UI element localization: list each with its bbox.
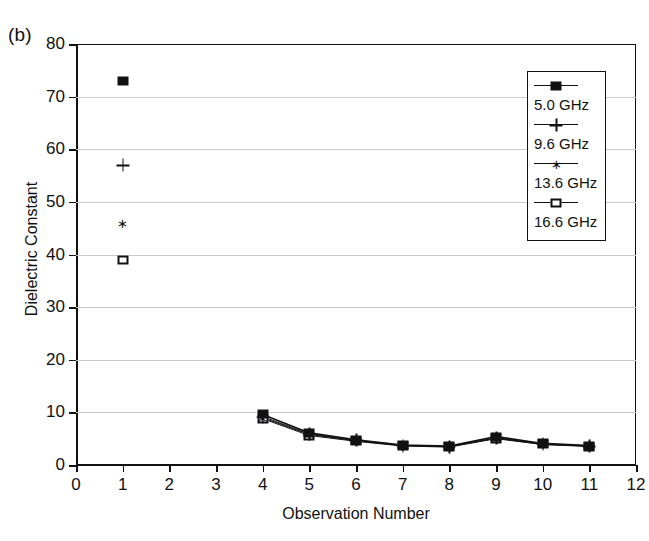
y-tick (69, 360, 76, 362)
y-tick (69, 97, 76, 99)
marker-open-square (117, 255, 128, 264)
legend-key-row (528, 194, 605, 212)
x-tick-label: 3 (196, 475, 236, 495)
legend-label: 13.6 GHz (528, 173, 605, 194)
marker-filled-square (351, 435, 362, 444)
x-tick-label: 2 (149, 475, 189, 495)
legend-key (534, 194, 578, 212)
legend-box: 5.0 GHz9.6 GHz∗13.6 GHz16.6 GHz (527, 71, 606, 241)
x-axis-label: Observation Number (76, 505, 636, 523)
x-tick-label: 11 (569, 475, 609, 495)
x-tick (123, 465, 125, 472)
legend-key-row (528, 116, 605, 134)
legend-label: 9.6 GHz (528, 134, 605, 155)
x-tick-label: 9 (476, 475, 516, 495)
x-tick-label: 4 (243, 475, 283, 495)
legend-key: ∗ (534, 155, 578, 173)
x-tick-label: 1 (103, 475, 143, 495)
y-tick-label: 50 (5, 192, 65, 212)
marker-filled-square (257, 410, 268, 419)
x-tick (449, 465, 451, 472)
y-tick (69, 44, 76, 46)
x-tick-label: 10 (523, 475, 563, 495)
x-tick (169, 465, 171, 472)
x-tick (309, 465, 311, 472)
marker-filled-square (491, 432, 502, 441)
x-tick (589, 465, 591, 472)
x-tick-label: 5 (289, 475, 329, 495)
marker-filled-square (537, 439, 548, 448)
legend-key (534, 77, 578, 95)
x-tick (543, 465, 545, 472)
x-tick (76, 465, 78, 472)
marker-filled-square (584, 441, 595, 450)
x-tick-label: 8 (429, 475, 469, 495)
y-tick-label: 30 (5, 297, 65, 317)
marker-asterisk: ∗ (551, 159, 562, 170)
marker-plus (550, 119, 563, 132)
x-tick (496, 465, 498, 472)
y-tick-label: 20 (5, 350, 65, 370)
y-tick (69, 465, 76, 467)
marker-filled-square (304, 428, 315, 437)
x-tick (263, 465, 265, 472)
figure-root: (b) Dielectric Constant Observation Numb… (0, 0, 649, 541)
legend-label: 16.6 GHz (528, 212, 605, 233)
x-tick (636, 465, 638, 472)
legend-label: 5.0 GHz (528, 95, 605, 116)
y-tick-label: 0 (5, 455, 65, 475)
y-tick-label: 80 (5, 34, 65, 54)
x-tick (356, 465, 358, 472)
x-tick (403, 465, 405, 472)
marker-filled-square (397, 441, 408, 450)
marker-plus (116, 159, 129, 172)
marker-open-square (551, 199, 562, 208)
y-tick (69, 149, 76, 151)
marker-filled-square (444, 442, 455, 451)
x-tick-label: 6 (336, 475, 376, 495)
marker-filled-square (117, 76, 128, 85)
y-tick-label: 60 (5, 139, 65, 159)
x-tick-label: 7 (383, 475, 423, 495)
marker-asterisk: ∗ (117, 217, 128, 228)
legend-key-row: ∗ (528, 155, 605, 173)
y-tick-label: 10 (5, 402, 65, 422)
marker-filled-square (551, 82, 562, 91)
legend-key (534, 116, 578, 134)
y-tick (69, 202, 76, 204)
y-tick (69, 307, 76, 309)
x-tick-label: 0 (56, 475, 96, 495)
y-tick (69, 255, 76, 257)
legend-key-row (528, 77, 605, 95)
y-tick-label: 70 (5, 87, 65, 107)
x-tick (216, 465, 218, 472)
y-tick-label: 40 (5, 245, 65, 265)
y-tick (69, 412, 76, 414)
x-tick-label: 12 (616, 475, 649, 495)
